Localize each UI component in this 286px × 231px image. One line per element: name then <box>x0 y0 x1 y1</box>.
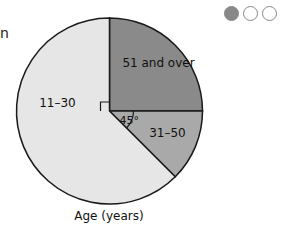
slice-label: 51 and over <box>122 56 194 70</box>
x-axis-label: Age (years) <box>0 209 218 223</box>
pie-chart: 51 and over31–5011–3045° <box>0 0 286 231</box>
slice-label: 11–30 <box>39 96 76 110</box>
pie-slices <box>16 18 202 204</box>
angle-label: 45° <box>120 114 140 127</box>
slice-label: 31–50 <box>149 126 186 140</box>
